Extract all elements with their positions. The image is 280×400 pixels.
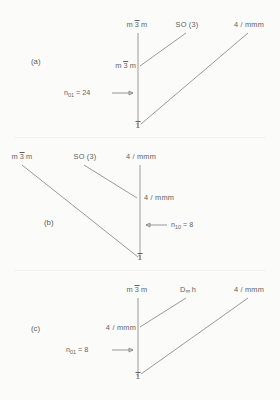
- node-middle-m3barm-a: m3m: [115, 62, 136, 69]
- label-top-4mmm-c: 4 / mmm: [234, 286, 264, 293]
- label-top-so3-a: SO (3): [176, 21, 199, 28]
- annotation-n10-b: n10 = 8: [171, 220, 193, 229]
- diagonal-4mmm-to-bottom: [141, 33, 248, 124]
- node-middle-4mmm-c: 4 / mmm: [106, 324, 136, 331]
- panel-b: (b) m3m SO (3) 4 / mmm 4 / mmm 1 n10 = 8: [0, 133, 280, 265]
- label-top-so3-b: SO (3): [74, 153, 97, 160]
- annotation-n01-c: n01 = 8: [66, 345, 88, 354]
- node-bottom-1bar-c: 1: [136, 373, 141, 380]
- symmetry-breaking-figure: (a) m3m SO (3) 4 / mmm m3m 1 n01 = 24: [0, 0, 280, 400]
- diagonal-so3-to-middle: [84, 165, 137, 198]
- label-top-m3barm-a: m3m: [127, 21, 148, 28]
- diagonal-so3-to-middle: [140, 33, 186, 66]
- panel-tag-a: (a): [31, 57, 41, 66]
- diagonal-4mmm-to-bottom: [141, 298, 248, 374]
- label-top-dinfinityh-c: D∞h: [180, 286, 196, 293]
- panel-c: (c) m3m D∞h 4 / mmm 4 / mmm 1 n01 = 8: [0, 265, 280, 400]
- label-top-m3barm-b: m3m: [12, 153, 33, 160]
- panel-a: (a) m3m SO (3) 4 / mmm m3m 1 n01 = 24: [0, 0, 280, 133]
- node-top-4mmm-b: 4 / mmm: [126, 153, 156, 160]
- panel-tag-c: (c): [31, 324, 40, 333]
- diagonal-dinfh-to-middle: [140, 298, 186, 327]
- label-top-m3barm-c: m3m: [127, 286, 148, 293]
- label-top-4mmm-a: 4 / mmm: [234, 21, 264, 28]
- node-bottom-1bar-a: 1: [136, 122, 141, 129]
- node-bottom-1bar-b: 1: [138, 254, 143, 261]
- annotation-n01-a: n01 = 24: [64, 88, 90, 97]
- diagonal-m3barm-to-bottom: [22, 165, 138, 257]
- panel-tag-b: (b): [44, 218, 54, 227]
- node-middle-4mmm-b: 4 / mmm: [144, 194, 174, 201]
